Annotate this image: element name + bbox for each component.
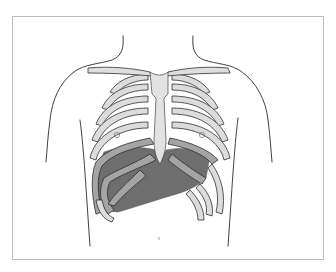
umbilicus-mark [158,237,160,240]
ribs-right [168,74,230,220]
thorax-illustration [0,0,336,272]
